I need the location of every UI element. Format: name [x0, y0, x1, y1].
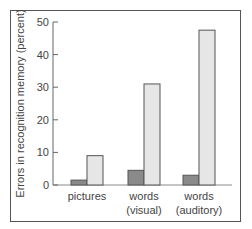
bar-series-dark: [128, 170, 144, 185]
y-axis-label: Errors in recognition memory (percent): [14, 9, 26, 197]
bar-chart: 01020304050Errors in recognition memory …: [0, 0, 252, 229]
y-tick-label: 50: [37, 16, 49, 28]
bar-series-dark: [183, 175, 199, 185]
bar-series-dark: [71, 180, 87, 185]
y-tick-label: 10: [37, 146, 49, 158]
x-category-label: words: [183, 190, 214, 202]
y-tick-label: 20: [37, 114, 49, 126]
x-category-label: (visual): [126, 204, 161, 216]
y-tick-label: 40: [37, 49, 49, 61]
y-tick-label: 0: [43, 179, 49, 191]
bar-series-light: [87, 156, 103, 185]
x-category-label: (auditory): [176, 204, 222, 216]
y-tick-label: 30: [37, 81, 49, 93]
bar-series-light: [144, 84, 160, 185]
bar-series-light: [199, 30, 215, 185]
x-category-label: pictures: [68, 190, 107, 202]
x-category-label: words: [128, 190, 159, 202]
